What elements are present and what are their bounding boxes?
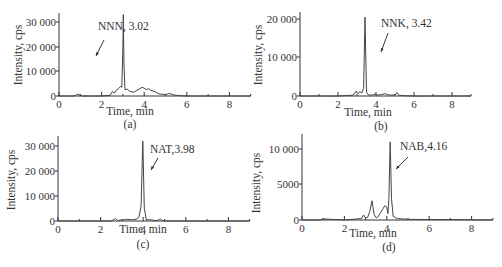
chromatogram-trace <box>302 142 493 220</box>
x-axis-title: Time, min <box>349 227 397 240</box>
chromatogram-figure: 02468010 00020 00030 000NNN, 3.02Time, m… <box>0 0 502 267</box>
y-axis-title: Intensity, cps <box>250 152 263 213</box>
y-tick-label: 20 000 <box>26 41 57 53</box>
chart-panel-a: 02468010 00020 00030 000NNN, 3.02Time, m… <box>12 13 251 131</box>
y-tick-label: 0 <box>292 90 298 102</box>
x-axis-title: Time, min <box>119 223 167 236</box>
x-tick-label: 8 <box>469 222 475 234</box>
peak-annotation: NAT,3.98 <box>150 143 195 156</box>
y-tick-label: 10 000 <box>26 65 57 77</box>
x-tick-label: 6 <box>411 98 417 110</box>
y-tick-label: 0 <box>50 215 56 227</box>
y-tick-label: 0 <box>294 214 300 226</box>
y-tick-label: 10 000 <box>267 51 298 63</box>
y-tick-label: 10 000 <box>269 143 300 155</box>
x-tick-label: 8 <box>449 98 455 110</box>
chart-panel-b: 02468010 00020 000NNK, 3.42Time, minInte… <box>252 12 471 133</box>
y-tick-label: 30 000 <box>26 16 57 28</box>
peak-annotation: NNK, 3.42 <box>381 17 432 30</box>
x-tick-label: 6 <box>183 223 189 235</box>
x-tick-label: 0 <box>299 222 305 234</box>
chart-panel-d: 024680500010 000NAB,4.16Time, minIntensi… <box>250 134 493 254</box>
y-tick-label: 20 000 <box>267 13 298 25</box>
y-tick-label: 5000 <box>277 178 300 190</box>
panel-label: (b) <box>374 120 388 133</box>
x-tick-label: 2 <box>99 98 105 110</box>
x-tick-label: 0 <box>55 223 61 235</box>
x-tick-label: 2 <box>335 98 341 110</box>
x-tick-label: 0 <box>56 98 62 110</box>
y-tick-label: 20 000 <box>25 165 56 177</box>
peak-annotation: NNN, 3.02 <box>98 20 149 33</box>
x-axis-title: Time, min <box>106 105 154 118</box>
y-axis-title: Intensity, cps <box>252 24 265 85</box>
panel-label: (a) <box>124 118 137 131</box>
panel-label: (d) <box>382 241 396 254</box>
y-axis-title: Intensity, cps <box>12 24 25 85</box>
x-tick-label: 0 <box>297 98 303 110</box>
x-tick-label: 6 <box>184 98 190 110</box>
y-axis-title: Intensity, cps <box>5 149 18 210</box>
y-tick-label: 0 <box>51 90 57 102</box>
x-tick-label: 2 <box>98 223 104 235</box>
x-tick-label: 8 <box>226 223 232 235</box>
chart-panel-c: 02468010 00020 00030 000NAT,3.98Time, mi… <box>5 136 250 251</box>
y-tick-label: 30 000 <box>25 140 56 152</box>
x-tick-label: 2 <box>342 222 348 234</box>
x-axis-title: Time, min <box>344 106 392 119</box>
y-tick-label: 10 000 <box>25 190 56 202</box>
chromatogram-trace <box>59 15 251 96</box>
panel-label: (c) <box>137 238 150 251</box>
peak-annotation: NAB,4.16 <box>400 140 448 153</box>
x-tick-label: 6 <box>426 222 432 234</box>
x-tick-label: 8 <box>227 98 233 110</box>
